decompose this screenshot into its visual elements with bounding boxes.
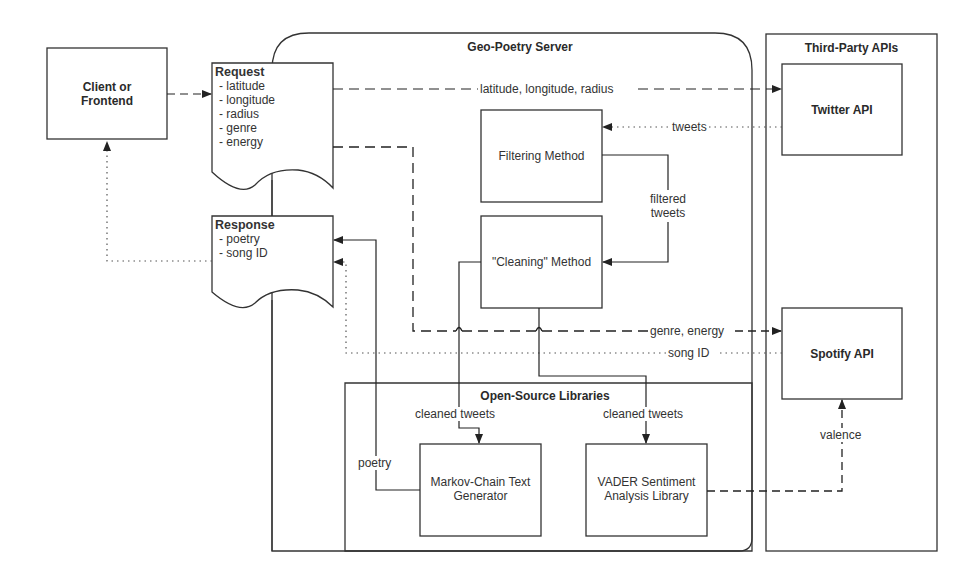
markov-label: Markov-Chain Text Generator — [420, 475, 541, 503]
client-label-line2: Frontend — [47, 94, 167, 108]
request-item-genre: - genre — [215, 121, 275, 135]
vader-label: VADER Sentiment Analysis Library — [586, 475, 707, 503]
edge-lat-lon-radius: latitude, longitude, radius — [478, 82, 615, 96]
request-content: Request - latitude - longitude - radius … — [215, 65, 275, 149]
response-content: Response - poetry - song ID — [215, 218, 275, 260]
edge-poetry: poetry — [356, 456, 393, 470]
cleaning-method-label: "Cleaning" Method — [481, 255, 602, 269]
third-party-title: Third-Party APIs — [766, 41, 937, 55]
edge-song-id: song ID — [666, 346, 711, 360]
response-item-song-id: - song ID — [215, 246, 275, 260]
markov-label-line1: Markov-Chain Text — [420, 475, 541, 489]
edge-filtered-tweets: filtered tweets — [638, 192, 698, 220]
request-item-latitude: - latitude — [215, 79, 275, 93]
response-title: Response — [215, 218, 275, 232]
client-label: Client or Frontend — [47, 80, 167, 108]
spotify-api-label: Spotify API — [782, 347, 902, 361]
filtered-tweets-line1: filtered — [638, 192, 698, 206]
twitter-api-label: Twitter API — [782, 103, 902, 117]
edge-cleaned-tweets-markov: cleaned tweets — [413, 407, 497, 421]
response-item-poetry: - poetry — [215, 232, 275, 246]
server-title: Geo-Poetry Server — [420, 40, 620, 54]
request-item-energy: - energy — [215, 135, 275, 149]
request-item-longitude: - longitude — [215, 93, 275, 107]
edge-tweets: tweets — [670, 120, 709, 134]
libraries-title: Open-Source Libraries — [445, 389, 645, 403]
client-label-line1: Client or — [47, 80, 167, 94]
filtered-tweets-line2: tweets — [638, 206, 698, 220]
edge-cleaned-tweets-vader: cleaned tweets — [601, 407, 685, 421]
vader-label-line1: VADER Sentiment — [586, 475, 707, 489]
vader-label-line2: Analysis Library — [586, 489, 707, 503]
edge-genre-energy: genre, energy — [648, 324, 726, 338]
markov-label-line2: Generator — [420, 489, 541, 503]
request-title: Request — [215, 65, 275, 79]
request-item-radius: - radius — [215, 107, 275, 121]
filtering-method-label: Filtering Method — [481, 149, 602, 163]
edge-valence: valence — [818, 428, 863, 442]
